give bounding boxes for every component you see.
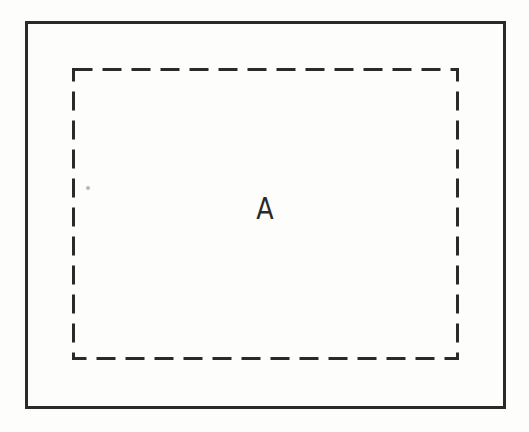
scan-speck: [86, 186, 90, 190]
region-label: A: [256, 192, 274, 224]
